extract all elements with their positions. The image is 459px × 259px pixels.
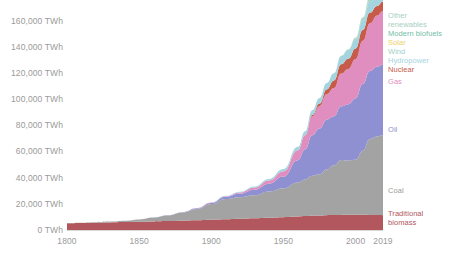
chart-page: 0 TWh20,000 TWh40,000 TWh60,000 TWh80,00…: [0, 0, 459, 259]
x-tick-label: 1900: [191, 236, 231, 246]
y-tick-label: 20,000 TWh: [16, 199, 63, 209]
legend-item-gas[interactable]: Gas: [388, 78, 402, 87]
x-tick-label: 1850: [119, 236, 159, 246]
legend-item-traditional-biomass[interactable]: Traditional biomass: [388, 210, 423, 227]
x-tick-label: 1800: [47, 236, 87, 246]
legend-item-nuclear[interactable]: Nuclear: [388, 66, 414, 75]
y-tick-label: 160,000 TWh: [11, 16, 63, 26]
legend-item-oil[interactable]: Oil: [388, 126, 397, 135]
y-tick-label: 0 TWh: [38, 225, 63, 235]
y-tick-label: 120,000 TWh: [11, 68, 63, 78]
y-tick-label: 80,000 TWh: [16, 120, 63, 130]
area-series-group: [67, 0, 383, 231]
y-tick-label: 100,000 TWh: [11, 94, 63, 104]
legend-item-coal[interactable]: Coal: [388, 187, 404, 196]
legend-item-other-renewables[interactable]: Other renewables: [388, 12, 427, 29]
x-tick-label: 2019: [363, 236, 403, 246]
x-tick-label: 1950: [263, 236, 303, 246]
y-tick-label: 60,000 TWh: [16, 146, 63, 156]
y-tick-label: 40,000 TWh: [16, 173, 63, 183]
y-tick-label: 140,000 TWh: [11, 42, 63, 52]
